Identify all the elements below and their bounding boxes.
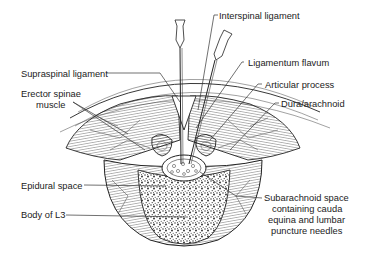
lumbar-puncture-needle-vertical — [175, 20, 185, 164]
label-epidural-space: Epidural space — [21, 181, 83, 191]
label-dura-arachnoid: Dura/arachnoid — [281, 99, 345, 109]
spinal-canal — [162, 155, 206, 181]
label-subarachnoid-1: Subarachnoid space — [264, 193, 349, 203]
articular-processes — [152, 134, 216, 156]
label-subarachnoid-4: puncture needles — [271, 226, 343, 236]
label-erector-spinae-1: Erector spinae — [21, 89, 81, 99]
lumbar-puncture-diagram: Interspinal ligament Supraspinal ligamen… — [0, 0, 367, 258]
label-interspinal-ligament: Interspinal ligament — [219, 11, 300, 21]
label-articular-process: Articular process — [265, 80, 335, 90]
label-subarachnoid-3: equina and lumbar — [268, 215, 345, 225]
label-body-of-l3: Body of L3 — [21, 210, 65, 220]
label-supraspinal-ligament: Supraspinal ligament — [21, 69, 108, 79]
label-subarachnoid-2: containing cauda — [272, 204, 343, 214]
label-erector-spinae-2: muscle — [36, 100, 65, 110]
label-ligamentum-flavum: Ligamentum flavum — [248, 58, 329, 68]
